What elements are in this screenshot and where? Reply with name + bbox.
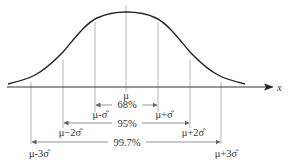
mu-plus-2sigma-label: μ+2σ̂ <box>182 127 206 138</box>
percent-95-label: 95% <box>117 118 137 129</box>
normal-distribution-diagram: x μ 68% 95% 99.7% μ-σ̂ μ+σ̂ μ−2σ̂ μ+2σ̂ … <box>0 0 288 166</box>
percent-68-label: 68% <box>117 99 137 110</box>
mu-minus-3sigma-label: μ-3σ̂ <box>29 148 51 159</box>
bell-curve <box>8 12 245 84</box>
mu-minus-1sigma-label: μ-σ̂ <box>93 109 110 120</box>
percent-997-label: 99.7% <box>113 137 140 148</box>
mu-minus-2sigma-label: μ−2σ̂ <box>59 127 83 138</box>
mu-plus-3sigma-label: μ+3σ̂ <box>215 148 239 159</box>
x-axis-label: x <box>276 82 282 93</box>
mu-plus-1sigma-label: μ+σ̂ <box>155 109 174 120</box>
